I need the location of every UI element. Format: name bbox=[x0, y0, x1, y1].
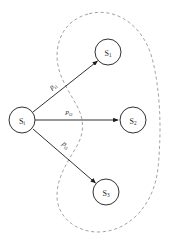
edge-si-to-s3 bbox=[33, 129, 96, 183]
state-transition-diagram: Si S1 S2 S3 pi1 pi2 pi3 bbox=[0, 0, 172, 245]
edge-label-pi2: pi2 bbox=[64, 108, 73, 117]
diagram-canvas: Si S1 S2 S3 pi1 pi2 pi3 bbox=[0, 0, 172, 245]
edge-label-pi1: pi1 bbox=[47, 80, 59, 92]
edge-si-to-s1 bbox=[33, 61, 98, 112]
edge-label-pi3: pi3 bbox=[60, 139, 72, 151]
